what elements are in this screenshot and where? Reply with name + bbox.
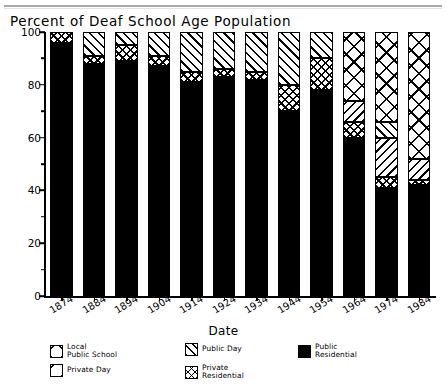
y-axis-tick-mark — [39, 31, 45, 33]
bar-segment-solid — [343, 138, 366, 296]
bar-segment-solid — [213, 77, 236, 296]
bar-1984[interactable] — [408, 32, 431, 296]
legend-swatch-cross-icon — [185, 366, 198, 379]
bar-segment-x — [408, 32, 431, 159]
bar-segment-solid — [245, 80, 268, 296]
legend-label-line2: Public School — [67, 351, 117, 359]
bar-segment-fslash — [245, 32, 268, 72]
bar-segment-fslash — [310, 32, 333, 58]
bar-segment-cross — [375, 177, 398, 188]
bar-segment-fslash — [278, 32, 301, 85]
legend-item-private-day[interactable]: Private Day — [50, 364, 111, 377]
y-axis-tick-mark — [39, 84, 45, 86]
bar-segment-fslash — [115, 32, 138, 45]
chart-legend: LocalPublic SchoolPrivate DayPublic DayP… — [50, 343, 410, 385]
legend-item-public-residential[interactable]: PublicResidential — [298, 343, 357, 360]
bar-1934[interactable] — [245, 32, 268, 296]
legend-swatch-fslash-icon — [185, 343, 198, 356]
y-axis-minor-tick-mark — [41, 58, 45, 60]
legend-label: PrivateResidential — [202, 364, 244, 381]
bar-1974[interactable] — [375, 32, 398, 296]
bar-1874[interactable] — [50, 32, 73, 296]
bar-1904[interactable] — [148, 32, 171, 296]
legend-label: Public Day — [202, 345, 242, 353]
bar-segment-bslash — [408, 159, 431, 180]
bar-segment-x — [375, 32, 398, 122]
bar-segment-cross — [148, 56, 171, 67]
bar-1954[interactable] — [310, 32, 333, 296]
bar-segment-fslash — [213, 32, 236, 69]
bar-segment-cross — [408, 180, 431, 185]
bar-1924[interactable] — [213, 32, 236, 296]
y-axis-tick-mark — [39, 137, 45, 139]
legend-label-line1: Public Day — [202, 345, 242, 353]
legend-label: LocalPublic School — [67, 343, 117, 360]
y-axis-tick-mark — [39, 242, 45, 244]
bar-segment-cross — [310, 58, 333, 90]
bar-segment-solid — [310, 90, 333, 296]
bar-segment-cross — [278, 85, 301, 111]
legend-swatch-x-icon — [50, 345, 63, 358]
legend-label: PublicResidential — [315, 343, 357, 360]
page-scan-line-secondary — [4, 8, 442, 9]
bar-segment-cross — [245, 72, 268, 80]
y-axis-minor-tick-mark — [41, 216, 45, 218]
legend-swatch-bslash-icon — [50, 364, 63, 377]
legend-item-private-residential[interactable]: PrivateResidential — [185, 364, 244, 381]
legend-label: Private Day — [67, 366, 111, 374]
bar-segment-solid — [83, 64, 106, 296]
bar-segment-cross — [213, 69, 236, 77]
legend-label-line2: Residential — [202, 372, 244, 380]
legend-label-line2: Residential — [315, 351, 357, 359]
bar-segment-solid — [278, 111, 301, 296]
x-axis-label: Date — [0, 324, 447, 338]
bar-segment-fslash — [180, 32, 203, 72]
bar-segment-x — [343, 32, 366, 101]
bar-1944[interactable] — [278, 32, 301, 296]
legend-item-public-day[interactable]: Public Day — [185, 343, 242, 356]
bar-segment-bslash — [375, 138, 398, 178]
page-scan-line — [4, 5, 442, 7]
chart-title: Percent of Deaf School Age Population — [10, 13, 291, 29]
y-axis-tick-label: 100 — [21, 26, 41, 38]
legend-label-line1: Private Day — [67, 366, 111, 374]
y-axis-tick-mark — [39, 295, 45, 297]
bar-segment-solid — [115, 61, 138, 296]
bar-segment-fslash — [375, 122, 398, 138]
bar-segment-solid — [408, 185, 431, 296]
bar-segment-solid — [180, 82, 203, 296]
bar-segment-solid — [50, 43, 73, 296]
plot-area: 0204060801001874188418941904191419241934… — [45, 32, 435, 296]
bar-segment-cross — [50, 32, 73, 43]
bar-segment-cross — [343, 122, 366, 138]
bar-segment-cross — [83, 56, 106, 64]
bar-segment-solid — [375, 188, 398, 296]
bar-segment-solid — [148, 66, 171, 296]
legend-item-local-public-school[interactable]: LocalPublic School — [50, 343, 117, 360]
bar-segment-bslash — [343, 101, 366, 122]
bar-segment-fslash — [148, 32, 171, 56]
bar-segment-cross — [180, 72, 203, 83]
bar-1964[interactable] — [343, 32, 366, 296]
bar-1884[interactable] — [83, 32, 106, 296]
bar-1894[interactable] — [115, 32, 138, 296]
legend-swatch-solid-icon — [298, 345, 311, 358]
chart-root: Percent of Deaf School Age Population 02… — [0, 0, 447, 389]
bar-1914[interactable] — [180, 32, 203, 296]
bar-segment-fslash — [83, 32, 106, 56]
bar-segment-cross — [115, 45, 138, 61]
y-axis-tick-mark — [39, 190, 45, 192]
y-axis-minor-tick-mark — [41, 110, 45, 112]
y-axis-minor-tick-mark — [41, 269, 45, 271]
y-axis-minor-tick-mark — [41, 163, 45, 165]
